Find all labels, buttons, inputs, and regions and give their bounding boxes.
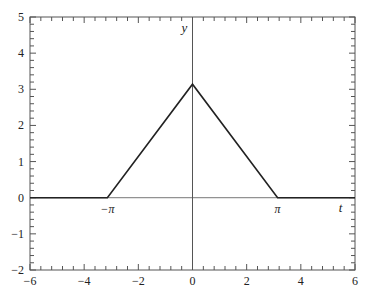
- zero-axes: [30, 17, 355, 270]
- y-tick-label: −2: [11, 263, 24, 277]
- x-tick-label: 4: [298, 274, 304, 288]
- y-tick-label: −1: [11, 227, 24, 241]
- y-tick-label: 5: [18, 10, 24, 24]
- x-axis-label: t: [339, 200, 343, 215]
- neg-pi-label: −π: [100, 202, 115, 216]
- x-tick-label: 0: [190, 274, 196, 288]
- y-tick-label: 4: [18, 46, 24, 60]
- x-tick-label: −2: [132, 274, 145, 288]
- pi-label: π: [275, 202, 282, 216]
- x-tick-label: −4: [78, 274, 91, 288]
- y-axis-label: y: [180, 20, 188, 35]
- x-tick-label: −6: [24, 274, 37, 288]
- annotations: y t −π π: [100, 20, 342, 216]
- y-tick-label: 0: [18, 191, 24, 205]
- y-tick-label: 3: [18, 82, 24, 96]
- y-tick-label: 2: [18, 118, 24, 132]
- triangle-pulse-chart: −6−4−20246−2−1012345 y t −π π: [0, 0, 370, 299]
- tick-labels: −6−4−20246−2−1012345: [11, 10, 358, 288]
- x-tick-label: 2: [244, 274, 250, 288]
- y-tick-label: 1: [18, 155, 24, 169]
- x-tick-label: 6: [352, 274, 358, 288]
